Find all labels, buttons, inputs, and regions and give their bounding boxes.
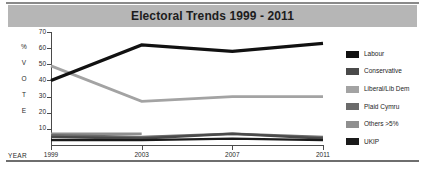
- plot-area: %VOTE 70605040302010 YEAR 19992003200720…: [0, 28, 340, 160]
- legend-item-label: Others >5%: [364, 121, 399, 128]
- chart-legend: LabourConservativeLiberal/Lib DemPlaid C…: [346, 48, 422, 154]
- legend-swatch-icon: [346, 86, 359, 93]
- legend-swatch-icon: [346, 121, 359, 128]
- legend-item-label: Plaid Cymru: [364, 104, 399, 111]
- legend-item-label: Conservative: [364, 68, 402, 75]
- page-title: Electoral Trends 1999 - 2011: [131, 9, 294, 23]
- chart-figure: Electoral Trends 1999 - 2011 %VOTE 70605…: [0, 0, 425, 170]
- series-lines: [0, 28, 340, 160]
- legend-item-label: Liberal/Lib Dem: [364, 86, 410, 93]
- legend-swatch-icon: [346, 68, 359, 75]
- legend-item-label: UKIP: [364, 139, 379, 146]
- legend-item[interactable]: Plaid Cymru: [346, 101, 422, 113]
- legend-item[interactable]: Labour: [346, 48, 422, 60]
- legend-swatch-icon: [346, 103, 359, 110]
- legend-swatch-icon: [346, 51, 359, 58]
- legend-item-label: Labour: [364, 51, 384, 58]
- legend-swatch-icon: [346, 138, 359, 145]
- series-line: [51, 43, 323, 80]
- bottom-divider: [6, 160, 419, 162]
- top-divider: [6, 2, 419, 4]
- series-line: [51, 66, 323, 102]
- legend-item[interactable]: Others >5%: [346, 118, 422, 130]
- chart-title-banner: Electoral Trends 1999 - 2011: [8, 5, 417, 27]
- legend-item[interactable]: Conservative: [346, 66, 422, 78]
- legend-item[interactable]: UKIP: [346, 136, 422, 148]
- legend-item[interactable]: Liberal/Lib Dem: [346, 83, 422, 95]
